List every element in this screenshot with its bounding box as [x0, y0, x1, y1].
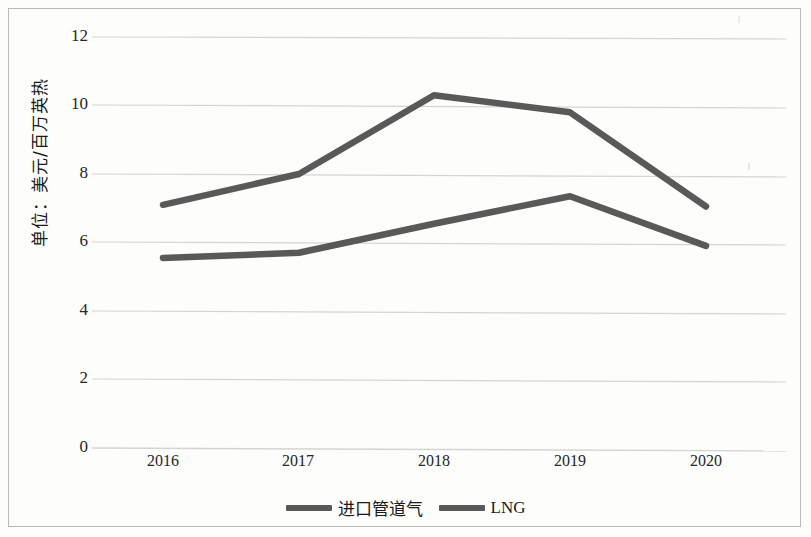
legend-item-pipeline-gas[interactable]: 进口管道气: [286, 495, 423, 520]
chart-legend: 进口管道气 LNG: [0, 495, 811, 520]
scan-artifact: [748, 163, 750, 170]
legend-line-swatch-icon: [286, 505, 332, 511]
legend-line-swatch-icon: [439, 505, 485, 511]
plot-area: [0, 0, 811, 537]
legend-label-lng: LNG: [491, 498, 526, 518]
scan-artifact: [738, 16, 740, 23]
series-line-pipeline-gas: [163, 196, 706, 258]
legend-label-pipeline-gas: 进口管道气: [338, 495, 423, 520]
legend-item-lng[interactable]: LNG: [439, 498, 526, 518]
series-line-lng: [163, 95, 706, 206]
chart-container: 单位：美元/百万英热 12 10 8 6 4 2 0 2016 2017 201…: [0, 0, 811, 537]
